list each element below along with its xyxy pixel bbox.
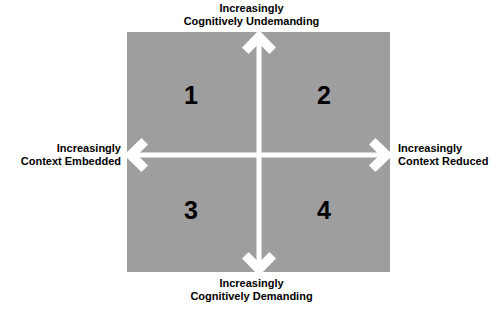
quadrant-number-1: 1 — [171, 83, 211, 108]
axis-label-left: Increasingly Context Embedded — [0, 142, 121, 168]
quadrant-matrix-box — [127, 32, 390, 272]
quadrant-number-2: 2 — [304, 83, 344, 108]
axis-label-bottom: Increasingly Cognitively Demanding — [0, 277, 503, 303]
diagram-canvas: 1 2 3 4 Increasingly Cognitively Undeman… — [0, 0, 503, 310]
quadrant-number-4: 4 — [304, 198, 344, 223]
axis-label-right: Increasingly Context Reduced — [398, 142, 503, 168]
quadrant-number-3: 3 — [171, 198, 211, 223]
axis-label-top: Increasingly Cognitively Undemanding — [0, 2, 503, 28]
